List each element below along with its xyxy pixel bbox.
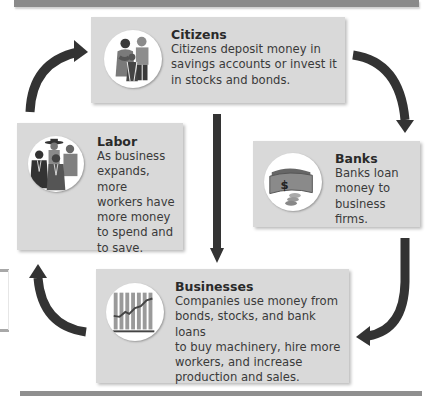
- arrow-labor-to-citizens: [0, 0, 435, 396]
- bottom-footer-bar: [20, 391, 422, 396]
